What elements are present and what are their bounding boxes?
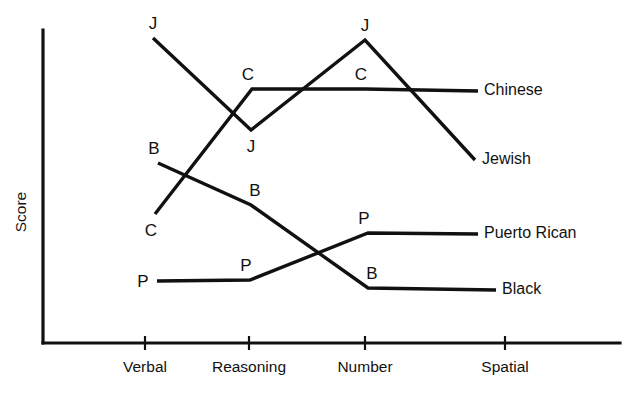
series-name-label-puerto-rican: Puerto Rican: [484, 224, 577, 241]
series-marker-jewish-number: J: [361, 16, 370, 35]
x-axis-tick-label-number: Number: [337, 358, 392, 375]
series-marker-chinese-reasoning: C: [242, 65, 254, 84]
series-name-label-chinese: Chinese: [484, 81, 543, 98]
series-name-label-jewish: Jewish: [482, 150, 531, 167]
series-marker-puerto-rican-verbal: P: [137, 272, 148, 291]
chart-canvas: JJJCCCBBBPPP JewishChineseBlackPuerto Ri…: [0, 0, 635, 402]
x-axis-tick-label-verbal: Verbal: [123, 358, 167, 375]
series-marker-puerto-rican-number: P: [358, 209, 369, 228]
y-axis-title: Score: [12, 192, 29, 233]
series-marker-jewish-verbal: J: [149, 14, 158, 33]
series-marker-black-number: B: [366, 264, 377, 283]
line-chart-figure: JJJCCCBBBPPP JewishChineseBlackPuerto Ri…: [0, 0, 635, 402]
x-axis-tick-labels-group: VerbalReasoningNumberSpatial: [123, 358, 529, 375]
series-marker-chinese-number: C: [355, 65, 367, 84]
series-marker-chinese-verbal: C: [145, 221, 157, 240]
x-axis-tick-label-spatial: Spatial: [481, 358, 528, 375]
series-line-chinese: [155, 89, 478, 214]
series-name-labels-group: JewishChineseBlackPuerto Rican: [482, 81, 577, 297]
series-line-puerto-rican: [157, 233, 478, 281]
series-marker-puerto-rican-reasoning: P: [240, 256, 251, 275]
series-line-black: [158, 163, 496, 290]
series-line-jewish: [153, 38, 475, 160]
series-name-label-black: Black: [502, 280, 542, 297]
series-marker-black-reasoning: B: [249, 181, 260, 200]
series-lines-group: [153, 38, 496, 290]
series-marker-black-verbal: B: [148, 139, 159, 158]
series-marker-jewish-reasoning: J: [247, 137, 256, 156]
y-axis-title-group: Score: [12, 192, 29, 233]
x-axis-tick-label-reasoning: Reasoning: [212, 358, 286, 375]
